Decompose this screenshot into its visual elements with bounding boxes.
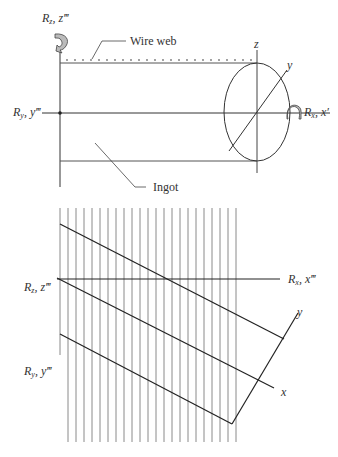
bottom-diagram: Rx, x‴ y x Rz, z‴ Ry, y‴ [23,208,316,442]
x-axis-diagonal [57,278,274,388]
rx-axis-label-bottom: Rx, x‴ [287,272,316,287]
ingot-bottom-diagonal [60,334,232,424]
y-axis [229,70,287,151]
top-diagram: Wire web Ingot z y Rz, z‴ Ry, y‴ Rx, x′ [12,11,330,194]
wire-lines [60,208,236,442]
ingot-leader [95,143,146,187]
rotation-arrow-x-icon [287,105,301,119]
rz-axis-label-bottom: Rz, z‴ [23,280,51,295]
wire-web-dots [66,59,252,61]
ry-axis-label-bottom: Ry, y‴ [23,364,52,379]
ingot-label: Ingot [153,180,179,194]
rz-axis-label: Rz, z‴ [41,11,69,26]
ry-axis-label: Ry, y‴ [12,105,41,120]
wire-web-leader [92,41,126,59]
rotation-arrow-z-icon [55,34,68,53]
x-axis-label-bottom: x [280,385,287,399]
y-axis-label: y [286,58,293,72]
y-axis-label-bottom: y [296,305,303,319]
wire-saw-ingot-diagram: Wire web Ingot z y Rz, z‴ Ry, y‴ Rx, x′ [0,0,338,457]
rx-axis-label: Rx, x′ [303,105,329,120]
origin-dot [58,111,62,115]
wire-web-label: Wire web [130,34,177,48]
z-axis-label: z [253,37,259,51]
